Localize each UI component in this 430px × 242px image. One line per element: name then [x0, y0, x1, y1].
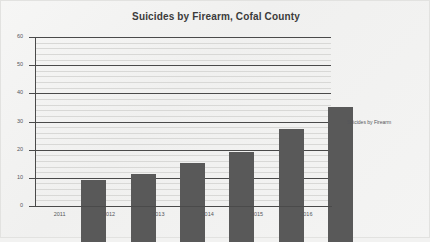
bar [229, 152, 254, 242]
x-axis-tick-label: 2014 [188, 212, 228, 218]
y-axis-tick-label: 10 [0, 175, 23, 181]
bar [328, 107, 353, 242]
y-axis-tick-label: 60 [0, 34, 23, 40]
y-axis-tick-label: 0 [0, 203, 23, 209]
legend-entry-label: Suicides by Firearm [347, 120, 391, 125]
x-axis-tick-label: 2011 [40, 212, 80, 218]
y-axis-tick [29, 178, 36, 179]
y-axis-tick [29, 37, 36, 38]
y-axis-tick-label: 50 [0, 62, 23, 68]
bar [279, 129, 304, 242]
y-axis-tick [29, 150, 36, 151]
y-axis-tick [29, 122, 36, 123]
chart-legend: Suicides by Firearm [341, 120, 391, 125]
plot-area [35, 37, 331, 206]
y-axis-tick [29, 206, 36, 207]
y-axis-tick-label: 20 [0, 147, 23, 153]
bar [180, 163, 205, 242]
x-axis-tick-label: 2015 [237, 212, 277, 218]
y-axis-tick [29, 93, 36, 94]
major-gridline [35, 37, 331, 38]
y-axis-tick-label: 30 [0, 119, 23, 125]
x-axis-tick-label: 2016 [286, 212, 326, 218]
bar [131, 174, 156, 242]
x-axis-tick-label: 2013 [138, 212, 178, 218]
major-gridline [35, 65, 331, 66]
square-marker-icon [341, 121, 345, 125]
chart-title: Suicides by Firearm, Cofal County [1, 11, 430, 22]
y-axis-tick [29, 65, 36, 66]
x-axis-line [35, 206, 332, 207]
x-axis-tick-label: 2012 [89, 212, 129, 218]
y-axis-tick-label: 40 [0, 90, 23, 96]
